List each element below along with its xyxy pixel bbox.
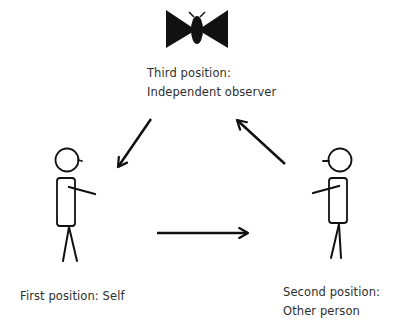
second-position-label: Second position: Other person [283,283,380,321]
stick-figure-self-icon [56,149,96,262]
arrow-second-to-third [237,120,285,164]
stick-figure-other-icon [313,149,352,259]
second-position-title: Second position: [283,283,380,302]
second-position-subtitle: Other person [283,302,380,321]
first-position-title: First position: [20,289,99,303]
third-position-label: Third position: Independent observer [147,64,276,102]
third-position-title: Third position: [147,64,276,83]
arrow-third-to-first [118,119,151,167]
fly-observer-icon [166,10,228,48]
third-position-subtitle: Independent observer [147,83,276,102]
first-position-label: First position: Self [20,287,125,306]
first-position-subtitle: Self [103,289,125,303]
